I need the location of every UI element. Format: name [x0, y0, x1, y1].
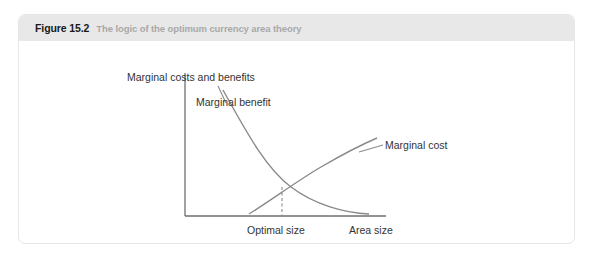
marginal-benefit-label: Marginal benefit	[196, 96, 271, 108]
figure-panel: Figure 15.2 The logic of the optimum cur…	[18, 14, 575, 244]
chart-plot-area: Marginal costs and benefits Marginal ben…	[19, 41, 574, 244]
optimum-currency-area-chart: Marginal costs and benefits Marginal ben…	[19, 41, 575, 244]
marginal-cost-curve	[249, 138, 377, 214]
y-axis-label: Marginal costs and benefits	[127, 71, 255, 83]
marginal-cost-leader-line	[359, 145, 383, 152]
optimal-size-label: Optimal size	[247, 224, 305, 236]
figure-header: Figure 15.2 The logic of the optimum cur…	[19, 15, 574, 41]
x-axis-label: Area size	[349, 224, 393, 236]
marginal-cost-label: Marginal cost	[385, 139, 448, 151]
figure-caption: The logic of the optimum currency area t…	[96, 23, 301, 34]
figure-number: Figure 15.2	[35, 22, 89, 34]
